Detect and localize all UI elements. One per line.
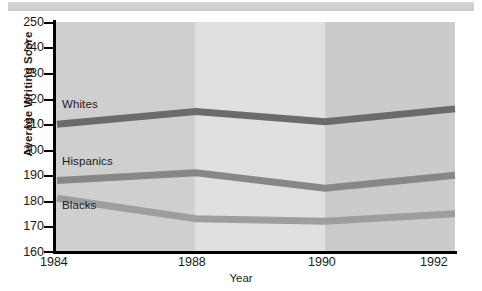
x-tick-label-1992: 1992	[420, 255, 448, 269]
y-tick-210	[44, 124, 54, 126]
y-tick-230	[44, 73, 54, 75]
plot-area	[55, 22, 455, 252]
x-tick-label-1990: 1990	[308, 255, 336, 269]
series-label-blacks: Blacks	[62, 199, 96, 211]
y-tick-label-170: 170	[0, 220, 44, 233]
band-1984-1988	[55, 22, 195, 252]
band-1988-1990	[195, 22, 325, 252]
y-tick-label-180: 180	[0, 195, 44, 208]
y-axis-line	[53, 20, 56, 254]
series-label-hispanics: Hispanics	[62, 155, 113, 167]
caption-strip	[8, 2, 474, 11]
y-tick-250	[44, 22, 54, 24]
chart-root: 250 240 230 220 210 200 190 180 170 160 …	[0, 0, 482, 291]
x-tick-label-1988: 1988	[178, 255, 206, 269]
y-tick-180	[44, 201, 54, 203]
x-axis-title: Year	[0, 272, 482, 284]
y-tick-label-160: 160	[0, 246, 44, 259]
y-tick-240	[44, 47, 54, 49]
y-tick-170	[44, 226, 54, 228]
series-label-whites: Whites	[62, 98, 98, 110]
y-tick-160	[44, 251, 54, 253]
x-axis-line	[53, 251, 457, 254]
y-tick-label-190: 190	[0, 169, 44, 182]
y-axis-title: Average Writing Score	[22, 19, 34, 169]
x-tick-label-1984: 1984	[40, 255, 68, 269]
y-tick-220	[44, 99, 54, 101]
y-tick-190	[44, 175, 54, 177]
band-1990-1992	[325, 22, 455, 252]
y-tick-200	[44, 150, 54, 152]
